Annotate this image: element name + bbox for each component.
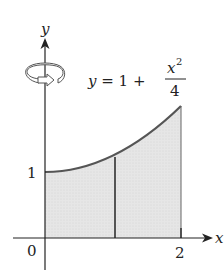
y-axis-label: y [40,20,50,38]
equation-denominator: 4 [170,82,180,100]
shaded-region [45,106,181,238]
y-tick-label-1: 1 [27,164,37,182]
equation-lhs: y = 1 + [87,72,145,90]
equation-numerator: x [167,59,176,77]
equation-exponent: 2 [176,56,182,67]
diagram-canvas: y x 0 2 1 y = 1 + x 2 4 [0,0,224,270]
x-tick-label-2: 2 [175,244,185,262]
x-axis-label: x [215,229,224,247]
origin-label: 0 [27,242,37,260]
